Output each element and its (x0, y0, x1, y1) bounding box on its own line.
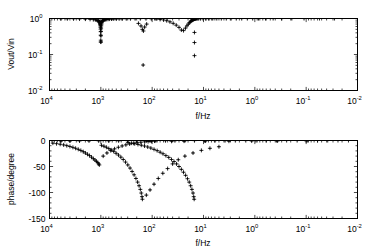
y-tick-label--50: -50 (33, 162, 46, 172)
figure-canvas: 10410310210110010-110-2 10010-110-2 f/Hz… (0, 0, 379, 251)
bode-plot-figure: 10410310210110010-110-2 10010-110-2 f/Hz… (0, 0, 379, 251)
y-tick-label--150: -150 (28, 214, 45, 224)
y-tick-label-0: 0 (41, 136, 46, 146)
magnitude-y-axis-label: Vout/Vin (6, 38, 16, 70)
magnitude-x-axis-label: f/Hz (195, 111, 210, 121)
y-tick-label--100: -100 (28, 188, 45, 198)
figure-background (0, 0, 379, 251)
phase-x-axis-label: f/Hz (195, 238, 210, 248)
phase-y-axis-label: phase/degree (6, 153, 16, 205)
